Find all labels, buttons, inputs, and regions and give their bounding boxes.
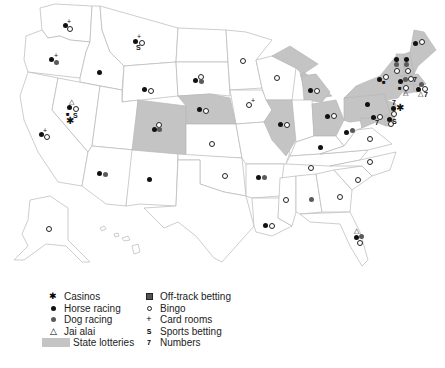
bingo-icon [209,141,215,147]
casinos-icon: ✱ [46,291,60,303]
horse-racing-icon [308,88,313,93]
numbers-icon: 7 [142,337,156,349]
bingo-icon [203,108,209,114]
sports-betting-icon: S [142,326,156,338]
bingo-icon [394,68,400,74]
jai-alai-icon: △ [46,326,60,338]
horse-racing-icon [365,102,370,107]
dog-racing-icon [350,128,355,133]
dog-racing-icon [103,172,108,177]
legend-left: ✱ Casinos Horse racing Dog racing △ Jai … [46,291,134,349]
state-wyoming [122,62,178,102]
horse-racing-icon [67,105,72,110]
bingo-icon [367,159,373,165]
state-north-dakota [176,28,228,62]
off-track-betting-icon: ■ [398,85,402,92]
state-alaska [14,196,90,262]
legend-item-horse-racing: Horse racing [46,303,134,315]
card-rooms-icon: + [142,314,156,326]
legend-item-off-track-betting: Off-track betting [142,291,231,303]
bingo-icon [46,226,52,232]
horse-racing-icon [318,145,323,150]
bingo-icon [337,194,343,200]
dog-racing-icon [46,317,60,322]
jai-alai-icon: △ [403,89,408,96]
bingo-icon [331,113,337,119]
numbers-icon: 7 [424,91,428,98]
dog-racing-icon [359,234,364,239]
sports-betting-icon: S [136,44,141,51]
dog-racing-icon [199,79,204,84]
state-hawaii [100,226,140,254]
legend-item-card-rooms: + Card rooms [142,314,231,326]
state-maine [410,30,436,74]
casinos-icon: ✱ [396,104,404,111]
bingo-icon [67,26,73,32]
bingo-icon [274,75,280,81]
state-new-mexico [126,150,178,206]
card-rooms-icon: + [54,52,58,59]
bingo-icon [240,58,246,64]
off-track-betting-icon [142,293,156,300]
bingo-icon [308,165,314,171]
state-arkansas [246,164,284,198]
legend-item-jai-alai: △ Jai alai [46,326,134,338]
dog-racing-icon [262,175,267,180]
horse-racing-icon [256,175,261,180]
card-rooms-icon: + [251,97,255,104]
bingo-icon [222,173,228,179]
horse-racing-icon [147,177,152,182]
bingo-icon [283,197,289,203]
card-rooms-icon: + [67,18,71,25]
off-track-betting-icon: ■ [382,79,386,86]
legend-right: Off-track betting Bingo + Card rooms S S… [142,291,231,349]
horse-racing-icon [413,41,418,46]
state-lotteries-swatch [42,338,70,347]
legend-item-sports-betting: S Sports betting [142,326,231,338]
sports-betting-icon: S [392,118,397,125]
horse-racing-icon [197,107,202,112]
dog-racing-icon [394,62,399,67]
card-rooms-icon: + [43,127,47,134]
bingo-icon [284,122,290,128]
us-map [0,0,445,280]
bingo-icon [405,68,411,74]
dog-racing-icon [309,197,314,202]
bingo-icon [367,136,373,142]
horse-racing-icon [325,114,330,119]
state-indiana [292,100,314,142]
legend-item-dog-racing: Dog racing [46,314,134,326]
bingo-icon [419,39,425,45]
bingo-icon [148,88,154,94]
bingo-icon [357,240,363,246]
jai-alai-icon: △ [418,90,423,97]
legend-item-numbers: 7 Numbers [142,337,231,349]
jai-alai-icon: △ [69,98,74,105]
horse-racing-icon [193,78,198,83]
bingo-icon [269,223,275,229]
bingo-icon [44,134,50,140]
horse-racing-icon [97,171,102,176]
bingo-icon [391,111,397,117]
bingo-icon [142,306,156,311]
card-rooms-icon: + [137,33,141,40]
legend-item-bingo: Bingo [142,303,231,315]
bingo-icon [314,88,320,94]
horse-racing-icon [278,122,283,127]
numbers-icon: 7 [375,119,379,126]
dog-racing-icon [54,60,59,65]
dog-racing-icon [157,127,162,132]
jai-alai-icon: △ [354,227,359,234]
legend-item-state-lotteries: State lotteries [42,337,134,349]
horse-racing-icon [263,223,268,228]
horse-racing-icon [97,70,102,75]
legend-item-casinos: ✱ Casinos [46,291,134,303]
horse-racing-icon [46,306,60,311]
state-arizona [82,146,134,206]
numbers-icon: 7 [413,76,417,83]
casinos-icon: ✱ [66,117,74,124]
horse-racing-icon [344,130,349,135]
bingo-icon [355,177,361,183]
dog-racing-icon [404,62,409,67]
horse-racing-icon [142,87,147,92]
